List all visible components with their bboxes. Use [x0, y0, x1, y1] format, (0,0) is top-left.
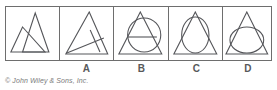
label-slot-prompt [5, 62, 59, 75]
copyright-notice: © John Wiley & Sons, Inc. [5, 77, 88, 84]
diagonal-line-a [66, 38, 103, 53]
panel-option-c[interactable] [169, 7, 224, 60]
offset-circle-b [128, 18, 161, 52]
option-a-shape-group [60, 7, 114, 60]
inscribed-ellipse-c [181, 17, 208, 53]
wide-ellipse-d [230, 27, 264, 53]
label-option-b: B [114, 62, 169, 75]
outer-triangle-a [65, 12, 107, 54]
option-labels: A B C D [5, 62, 272, 75]
panel-option-b[interactable] [114, 7, 169, 60]
prompt-shape-group [6, 7, 59, 60]
option-d-shape-group [223, 7, 271, 60]
panel-strip [5, 6, 272, 61]
panel-option-d[interactable] [223, 7, 271, 60]
option-c-shape-group [169, 7, 223, 60]
panel-option-a[interactable] [60, 7, 115, 60]
panel-prompt[interactable] [6, 7, 60, 60]
tall-triangle [23, 13, 49, 52]
option-b-shape-group [114, 7, 168, 60]
outer-triangle-c [174, 12, 217, 54]
label-option-d: D [224, 62, 272, 75]
wide-triangle [11, 27, 45, 52]
label-option-a: A [59, 62, 114, 75]
figure-root: A B C D © John Wiley & Sons, Inc. [0, 0, 277, 90]
label-option-c: C [169, 62, 224, 75]
